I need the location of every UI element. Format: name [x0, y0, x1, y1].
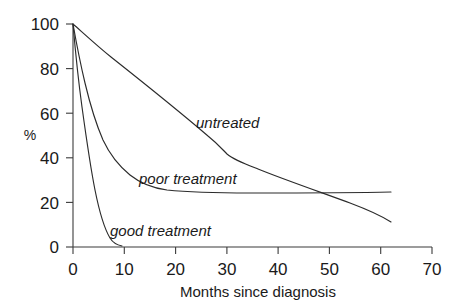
x-axis-title: Months since diagnosis — [180, 283, 336, 300]
x-tick-label-10: 10 — [115, 260, 134, 279]
x-tick-label-50: 50 — [320, 260, 339, 279]
series-label-untreated: untreated — [196, 114, 260, 131]
y-tick-label-100: 100 — [31, 15, 59, 34]
chart-axes — [66, 24, 432, 254]
x-tick-label-20: 20 — [166, 260, 185, 279]
chart-figure: 0 20 40 60 80 100 0 10 20 30 40 50 60 70… — [0, 0, 455, 306]
y-tick-label-20: 20 — [40, 194, 59, 213]
y-tick-label-60: 60 — [40, 105, 59, 124]
y-axis-title: % — [24, 127, 36, 143]
x-tick-label-60: 60 — [371, 260, 390, 279]
series-label-poor-treatment: poor treatment — [138, 170, 237, 187]
series-label-good-treatment: good treatment — [110, 222, 212, 239]
y-tick-label-40: 40 — [40, 149, 59, 168]
x-tick-labels: 0 10 20 30 40 50 60 70 — [68, 260, 441, 279]
y-tick-label-80: 80 — [40, 60, 59, 79]
x-tick-label-0: 0 — [68, 260, 77, 279]
survival-chart-plot: 0 20 40 60 80 100 0 10 20 30 40 50 60 70… — [0, 0, 455, 306]
curve-good-treatment — [73, 24, 122, 246]
curve-poor-treatment — [73, 24, 391, 193]
x-tick-label-30: 30 — [217, 260, 236, 279]
y-tick-label-0: 0 — [50, 238, 59, 257]
x-tick-label-70: 70 — [423, 260, 442, 279]
x-tick-label-40: 40 — [269, 260, 288, 279]
chart-series-curves — [73, 24, 391, 246]
